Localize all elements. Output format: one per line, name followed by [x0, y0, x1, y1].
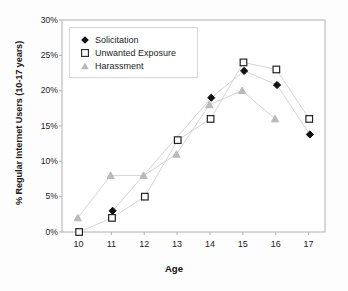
legend-item-label: Unwanted Exposure	[92, 48, 176, 58]
legend-item[interactable]: Solicitation	[78, 33, 191, 46]
series-markers-unwanted-exposure	[142, 193, 149, 200]
series-markers-unwanted-exposure	[207, 116, 214, 123]
legend-item[interactable]: Harassment	[78, 59, 191, 72]
chart-legend: SolicitationUnwanted ExposureHarassment	[69, 27, 198, 78]
legend-item[interactable]: Unwanted Exposure	[78, 46, 191, 59]
series-markers-unwanted-exposure	[306, 116, 313, 123]
series-markers-unwanted-exposure	[174, 137, 181, 144]
filled-diamond-icon	[78, 35, 92, 45]
legend-item-label: Solicitation	[92, 35, 139, 45]
x-axis-title: Age	[0, 263, 348, 274]
series-markers-unwanted-exposure	[76, 229, 83, 236]
chart-figure: % Regular Internet Users (10-17 years) 0…	[0, 0, 348, 291]
series-markers-unwanted-exposure	[109, 215, 116, 222]
legend-item-label: Harassment	[92, 61, 144, 71]
series-markers-unwanted-exposure	[273, 66, 280, 73]
series-markers-unwanted-exposure	[240, 59, 247, 66]
open-square-icon	[78, 48, 92, 58]
filled-triangle-icon	[78, 61, 92, 71]
